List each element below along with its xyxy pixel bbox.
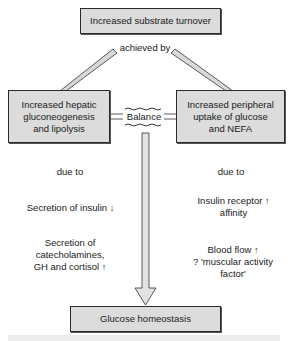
left-box-line-1: Increased hepatic: [22, 99, 97, 111]
right-box-line-2: uptake of glucose: [193, 111, 267, 123]
top-box-label: Increased substrate turnover: [90, 15, 211, 27]
bottom-band: [8, 335, 280, 341]
right-item-bloodflow: Blood flow ↑ ? 'muscular activity factor…: [180, 244, 286, 280]
right-box-line-1: Increased peripheral: [187, 99, 274, 111]
down-arrow: [135, 133, 156, 305]
wavy-line-top: [125, 108, 161, 110]
left-due-to: due to: [45, 166, 95, 178]
wavy-line-bottom: [125, 124, 161, 126]
right-item-bloodflow-line-1: Blood flow: [208, 244, 252, 255]
arrow-up-icon: ↑: [265, 196, 270, 206]
right-box: Increased peripheral uptake of glucose a…: [176, 90, 285, 143]
right-box-line-3: and NEFA: [209, 123, 252, 135]
connector-label: achieved by: [116, 42, 174, 54]
left-connector-bar: [60, 49, 117, 91]
right-item-receptor-line-2: affinity: [186, 207, 281, 219]
arrow-up-icon: ↑: [254, 245, 259, 255]
left-box-line-2: gluconeogenesis: [23, 111, 94, 123]
arrow-down-icon: ↓: [110, 203, 115, 213]
balance-label: Balance: [123, 111, 165, 123]
right-connector-bar: [171, 49, 233, 91]
right-item-bloodflow-line-2: ? 'muscular activity: [180, 256, 286, 268]
left-item-hormones: Secretion of catecholamines, GH and cort…: [10, 237, 130, 273]
left-item-insulin-text: Secretion of insulin: [27, 202, 107, 213]
left-box-line-3: and lipolysis: [33, 123, 85, 135]
right-item-bloodflow-line-3: factor': [180, 268, 286, 280]
top-box: Increased substrate turnover: [80, 8, 221, 34]
left-item-insulin: Secretion of insulin ↓: [8, 202, 133, 214]
left-item-hormones-line-1: Secretion of: [10, 237, 130, 249]
arrow-up-icon: ↑: [102, 262, 107, 272]
bottom-box-label: Glucose homeostasis: [100, 313, 191, 325]
right-due-to: due to: [206, 166, 256, 178]
right-item-receptor-line-1: Insulin receptor: [197, 195, 262, 206]
bottom-box: Glucose homeostasis: [70, 306, 221, 332]
right-item-receptor: Insulin receptor ↑ affinity: [186, 195, 281, 219]
left-box: Increased hepatic gluconeogenesis and li…: [8, 90, 110, 143]
left-item-hormones-line-3: GH and cortisol: [34, 261, 99, 272]
left-item-hormones-line-2: catecholamines,: [10, 249, 130, 261]
